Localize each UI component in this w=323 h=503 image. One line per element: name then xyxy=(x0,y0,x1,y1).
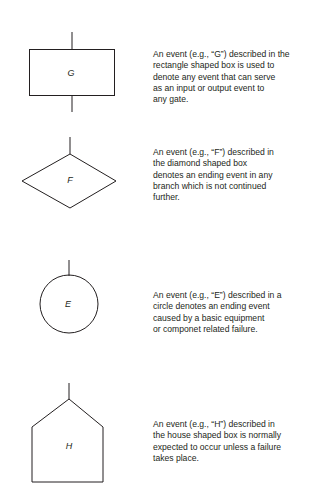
description-line: as an input or output event to xyxy=(153,83,323,94)
description-line: the house shaped box is normally xyxy=(153,430,323,441)
description-line: An event (e.g., “G”) described in the xyxy=(153,49,323,60)
description-line: further. xyxy=(153,192,323,203)
diamond-event-symbol xyxy=(22,137,116,208)
description-line: rectangle shaped box is used to xyxy=(153,60,323,71)
description-line: any gate. xyxy=(153,94,323,105)
circle-label: E xyxy=(65,299,72,309)
diamond-label: F xyxy=(67,175,73,185)
rectangle-description: An event (e.g., “G”) described in the re… xyxy=(153,49,323,105)
circle-description: An event (e.g., “E”) described in a circ… xyxy=(153,290,323,335)
description-line: or componet related failure. xyxy=(153,324,323,335)
description-line: circle denotes an ending event xyxy=(153,301,323,312)
description-line: the diamond shaped box xyxy=(153,158,323,169)
house-label: H xyxy=(66,441,73,451)
rectangle-label: G xyxy=(67,68,74,78)
description-line: takes place. xyxy=(153,453,323,464)
description-line: denotes an ending event in any xyxy=(153,170,323,181)
circle-event-symbol xyxy=(40,260,98,333)
house-description: An event (e.g., “H”) described in the ho… xyxy=(153,419,323,464)
description-line: branch which is not continued xyxy=(153,181,323,192)
diamond-description: An event (e.g., “F”) described in the di… xyxy=(153,147,323,203)
description-line: expected to occur unless a failure xyxy=(153,442,323,453)
description-line: An event (e.g., “F”) described in xyxy=(153,147,323,158)
house-event-symbol xyxy=(32,383,103,482)
description-line: caused by a basic equipment xyxy=(153,313,323,324)
description-line: An event (e.g., “E”) described in a xyxy=(153,290,323,301)
description-line: An event (e.g., “H”) described in xyxy=(153,419,323,430)
description-line: denote any event that can serve xyxy=(153,72,323,83)
